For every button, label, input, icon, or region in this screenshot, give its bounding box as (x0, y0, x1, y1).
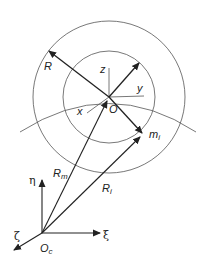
Ri-vector (42, 137, 140, 233)
y-axis (109, 96, 144, 97)
label-Rm: Rm (53, 167, 68, 181)
label-O: O (109, 103, 118, 115)
Rm-vector (42, 101, 107, 233)
diagram-canvas: R z y x O mi Rm Ri η ξ ζ Oc (0, 0, 206, 268)
label-xi: ξ (103, 229, 109, 242)
label-mi: mi (149, 128, 160, 142)
label-Oc: Oc (40, 242, 53, 256)
label-R: R (44, 60, 52, 72)
r-upper-right-vector (109, 63, 139, 97)
label-zeta: ζ (14, 230, 20, 243)
label-Ri: Ri (102, 182, 112, 196)
label-y: y (136, 82, 144, 94)
label-eta: η (29, 174, 36, 187)
label-z: z (99, 63, 106, 75)
surface-arc (20, 104, 196, 133)
label-x: x (76, 105, 83, 117)
